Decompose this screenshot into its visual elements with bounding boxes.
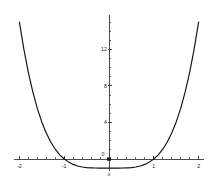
x-tick-label: 0	[102, 151, 105, 157]
x-tick-label: -2	[17, 163, 22, 169]
function-plot: -2-10124812x	[0, 0, 216, 185]
plot-canvas: -2-10124812x	[0, 0, 216, 185]
x-tick-label: 2	[197, 163, 200, 169]
y-tick-label: 4	[104, 119, 107, 125]
axes-group	[14, 15, 204, 172]
y-tick-label: 12	[101, 46, 107, 52]
x-tick-label: 1	[152, 163, 155, 169]
origin-marker	[107, 157, 111, 160]
x-axis-label: x	[107, 171, 111, 177]
y-tick-label: 8	[104, 83, 107, 89]
x-tick-label: -1	[62, 163, 67, 169]
